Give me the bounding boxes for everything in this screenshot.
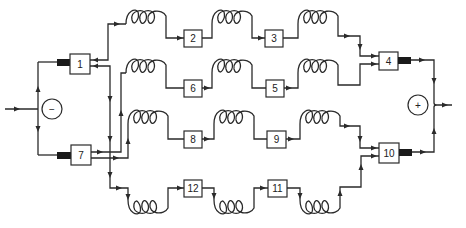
module-7: 7 xyxy=(57,145,91,165)
svg-text:8: 8 xyxy=(190,134,196,145)
svg-text:6: 6 xyxy=(190,83,196,94)
schematic-diagram: − 1 7 xyxy=(0,0,466,228)
positive-terminal: + xyxy=(408,95,428,115)
module-6: 6 xyxy=(184,80,202,97)
connector-bar xyxy=(57,152,71,159)
row-1: 2 3 xyxy=(126,10,379,58)
module-1: 1 xyxy=(57,54,90,74)
connector-bar xyxy=(398,57,411,64)
module-2: 2 xyxy=(184,30,202,47)
row-2: 6 5 xyxy=(126,59,379,97)
svg-text:11: 11 xyxy=(272,183,283,194)
module-11: 11 xyxy=(268,180,287,197)
module-12: 12 xyxy=(184,180,202,197)
connector-bar xyxy=(399,149,412,156)
svg-text:7: 7 xyxy=(78,150,84,161)
svg-text:12: 12 xyxy=(187,183,199,194)
module-8: 8 xyxy=(184,131,202,148)
module-4: 4 xyxy=(379,52,411,70)
row-3: 8 9 xyxy=(128,110,379,150)
svg-text:5: 5 xyxy=(272,83,278,94)
negative-symbol: − xyxy=(49,104,55,115)
svg-text:1: 1 xyxy=(77,59,83,70)
svg-text:10: 10 xyxy=(383,148,395,159)
negative-terminal: − xyxy=(42,99,62,119)
module-10: 10 xyxy=(379,143,412,163)
svg-text:4: 4 xyxy=(386,56,392,67)
row-4: 12 11 xyxy=(125,154,379,214)
svg-text:3: 3 xyxy=(271,33,277,44)
module-9: 9 xyxy=(267,131,286,148)
connector-bar xyxy=(57,59,70,66)
positive-symbol: + xyxy=(415,100,421,111)
svg-text:2: 2 xyxy=(190,33,196,44)
left-interconnect xyxy=(90,22,131,191)
svg-text:9: 9 xyxy=(274,134,280,145)
module-5: 5 xyxy=(266,80,284,97)
module-3: 3 xyxy=(265,30,283,47)
